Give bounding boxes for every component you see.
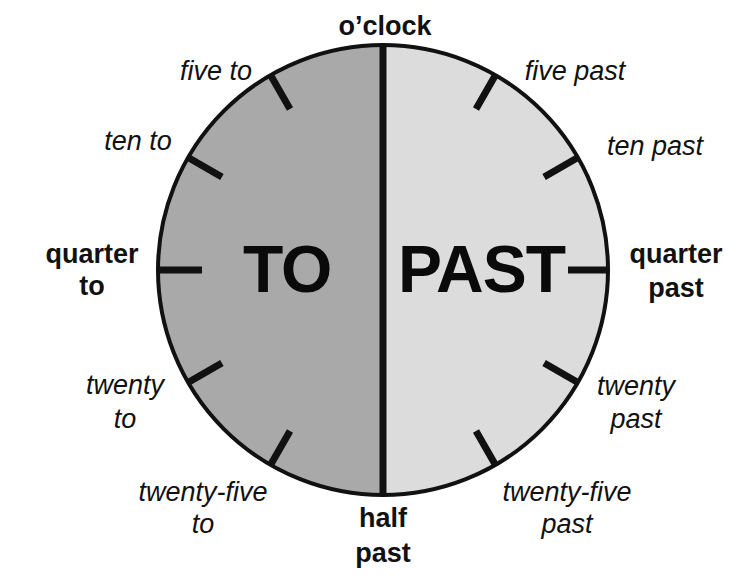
- past-heading: PAST: [398, 236, 565, 302]
- label-twenty-past-1: twenty: [574, 373, 698, 400]
- label-oclock: o’clock: [330, 13, 440, 40]
- label-five-past: five past: [510, 58, 640, 85]
- clock-diagram: TO PAST o’clock five to ten to quarter t…: [0, 0, 751, 586]
- label-quarter-past-2: past: [614, 275, 738, 302]
- label-twenty-to-1: twenty: [70, 372, 180, 399]
- label-quarter-to-2: to: [30, 273, 154, 300]
- to-heading: TO: [243, 236, 331, 302]
- label-half-past-2: past: [333, 540, 433, 567]
- label-ten-past: ten past: [593, 133, 717, 160]
- label-twenty-to-2: to: [70, 406, 180, 433]
- label-twentyfive-past-2: past: [482, 511, 652, 538]
- label-twenty-past-2: past: [574, 406, 698, 433]
- label-twentyfive-past-1: twenty-five: [482, 479, 652, 506]
- label-twentyfive-to-1: twenty-five: [118, 479, 288, 506]
- label-five-to: five to: [170, 58, 262, 85]
- label-ten-to: ten to: [96, 128, 180, 155]
- label-twentyfive-to-2: to: [118, 511, 288, 538]
- label-half-past-1: half: [333, 505, 433, 532]
- label-quarter-to-1: quarter: [30, 241, 154, 268]
- label-quarter-past-1: quarter: [614, 241, 738, 268]
